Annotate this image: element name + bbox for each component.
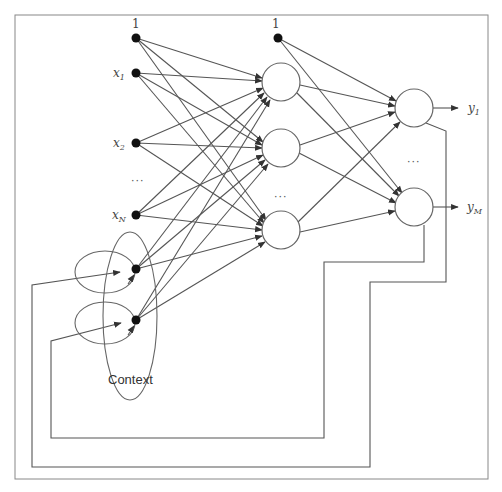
- input-ellipsis: ···: [131, 174, 145, 187]
- hidden-node-1: [262, 63, 300, 101]
- label-xN: xN: [112, 208, 127, 224]
- input-node-xN: [132, 211, 141, 220]
- hidden-node-2: [262, 129, 300, 167]
- hidden-to-output-edges: [278, 38, 402, 232]
- label-x1: x1: [113, 66, 125, 82]
- hidden-node-3: [262, 211, 300, 249]
- hidden-bias-label: 1: [272, 17, 280, 31]
- context-node-2: [132, 316, 141, 325]
- input-node-x1: [132, 69, 141, 78]
- input-node-x2: [132, 139, 141, 148]
- input-bias-node: [132, 34, 141, 43]
- label-x2: x2: [113, 136, 125, 152]
- input-to-hidden-edges: [136, 38, 270, 320]
- feedback-path-yM: [51, 225, 424, 438]
- hidden-ellipsis: ···: [274, 190, 288, 203]
- label-yM: yM: [466, 200, 483, 216]
- label-y1: y1: [467, 101, 480, 117]
- feedback-path-y1: [32, 123, 446, 467]
- context-label: Context: [108, 372, 153, 387]
- rnn-diagram: 1 1 x1 x2 xN ··· ··· ··· y1 yM Context: [0, 0, 502, 492]
- hidden-bias-node: [274, 34, 283, 43]
- figure-border: [15, 15, 488, 479]
- output-ellipsis: ···: [407, 155, 421, 168]
- output-node-1: [395, 89, 433, 127]
- self-loop-2: [75, 302, 135, 344]
- output-node-M: [395, 188, 433, 226]
- context-node-1: [132, 265, 141, 274]
- input-bias-label: 1: [132, 17, 140, 31]
